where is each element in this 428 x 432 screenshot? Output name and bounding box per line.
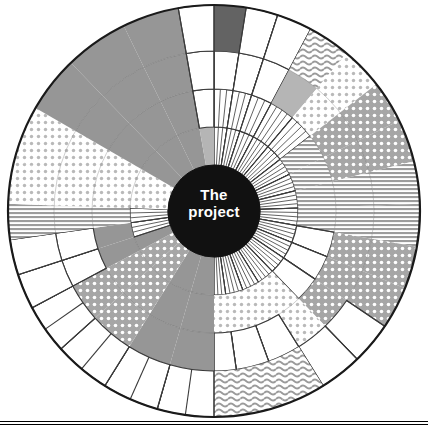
wheel-plate: [8, 5, 420, 417]
center-hub[interactable]: [168, 165, 260, 257]
sunburst-wheel[interactable]: [0, 0, 428, 432]
diagram-canvas: The project: [0, 0, 428, 432]
footer-rule-top: [0, 421, 428, 422]
footer-rule-bottom: [0, 424, 428, 425]
